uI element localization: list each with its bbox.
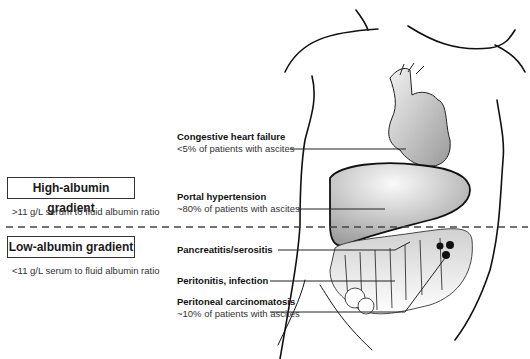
high-albumin-box: High-albumin gradient: [7, 177, 135, 199]
low-albumin-note: <11 g/L serum to fluid albumin ratio: [12, 265, 160, 276]
label-title: Pancreatitis/serositis: [177, 244, 273, 256]
label-congestive-heart-failure: Congestive heart failure <5% of patients…: [177, 131, 295, 155]
label-subtitle: <5% of patients with ascites: [177, 143, 295, 155]
label-subtitle: ~80% of patients with ascites: [177, 203, 300, 215]
label-peritonitis: Peritonitis, infection: [177, 275, 268, 287]
label-title: Congestive heart failure: [177, 131, 295, 143]
high-albumin-note: >11 g/L serum to fluid albumin ratio: [12, 206, 160, 217]
label-portal-hypertension: Portal hypertension ~80% of patients wit…: [177, 191, 300, 215]
label-peritoneal-carcinomatosis: Peritoneal carcinomatosis ~10% of patien…: [177, 296, 300, 320]
label-title: Peritoneal carcinomatosis: [177, 296, 300, 308]
label-pancreatitis: Pancreatitis/serositis: [177, 244, 273, 256]
label-title: Peritonitis, infection: [177, 275, 268, 287]
ascites-causes-diagram: High-albumin gradient >11 g/L serum to f…: [0, 0, 530, 359]
label-subtitle: ~10% of patients with ascites: [177, 308, 300, 320]
label-title: Portal hypertension: [177, 191, 300, 203]
heart: [389, 63, 450, 166]
low-albumin-box: Low-albumin gradient: [7, 236, 135, 258]
